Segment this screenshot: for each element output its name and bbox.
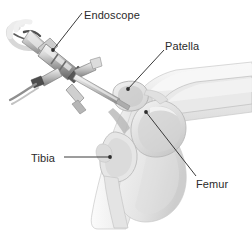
dot-tibia xyxy=(108,155,112,159)
label-femur: Femur xyxy=(196,178,228,190)
illustration-canvas xyxy=(0,0,252,231)
dot-patella xyxy=(126,87,130,91)
knee-arthroscopy-figure: Endoscope Patella Tibia Femur xyxy=(0,0,252,231)
label-endoscope: Endoscope xyxy=(84,9,140,21)
leader-endoscope xyxy=(53,13,82,50)
dot-endoscope xyxy=(51,48,55,52)
label-patella: Patella xyxy=(165,40,199,52)
label-tibia: Tibia xyxy=(31,152,55,164)
endoscope-instrument xyxy=(8,21,130,114)
dot-femur xyxy=(144,110,148,114)
